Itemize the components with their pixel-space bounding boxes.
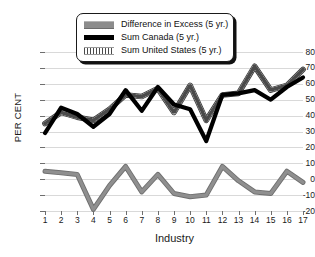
- x-axis-tick-label: 2: [53, 216, 69, 225]
- x-axis-tick-label: 1: [37, 216, 53, 225]
- plot-area: [45, 52, 303, 211]
- x-axis-tick-label: 9: [166, 216, 182, 225]
- x-axis-tick-label: 5: [102, 216, 118, 225]
- x-axis-tick-label: 13: [231, 216, 247, 225]
- legend-item-united-states: Sum United States (5 yr.): [84, 44, 227, 57]
- x-axis-tick-label: 10: [182, 216, 198, 225]
- legend-label-canada: Sum Canada (5 yr.): [121, 33, 199, 42]
- x-axis-tick-label: 6: [118, 216, 134, 225]
- legend-label-difference: Difference in Excess (5 yr.): [121, 20, 228, 29]
- series-line-difference: [45, 166, 303, 209]
- legend-swatch-canada-icon: [84, 35, 114, 40]
- x-axis-title: Industry: [45, 232, 304, 244]
- chart-legend: Difference in Excess (5 yr.) Sum Canada …: [76, 13, 234, 62]
- legend-item-canada: Sum Canada (5 yr.): [84, 31, 227, 44]
- line-chart: PER CENT 80706050403020100-10-20 1234567…: [0, 0, 315, 257]
- x-axis-tick-label: 17: [295, 216, 311, 225]
- x-axis-tick-label: 14: [247, 216, 263, 225]
- y-axis-title: PER CENT: [12, 83, 23, 153]
- x-axis-tick-label: 15: [263, 216, 279, 225]
- series-lines: [45, 52, 303, 211]
- x-axis-tick-label: 7: [134, 216, 150, 225]
- x-axis-tick-label: 4: [85, 216, 101, 225]
- x-axis-tick-label: 8: [150, 216, 166, 225]
- legend-swatch-united-states-icon: [84, 47, 114, 55]
- legend-label-united-states: Sum United States (5 yr.): [121, 46, 222, 55]
- x-axis-tick-label: 11: [198, 216, 214, 225]
- legend-swatch-difference-icon: [84, 21, 114, 29]
- x-axis-tick-label: 12: [214, 216, 230, 225]
- x-axis-tick-label: 16: [279, 216, 295, 225]
- x-axis-tick-label: 3: [69, 216, 85, 225]
- legend-item-difference: Difference in Excess (5 yr.): [84, 18, 227, 31]
